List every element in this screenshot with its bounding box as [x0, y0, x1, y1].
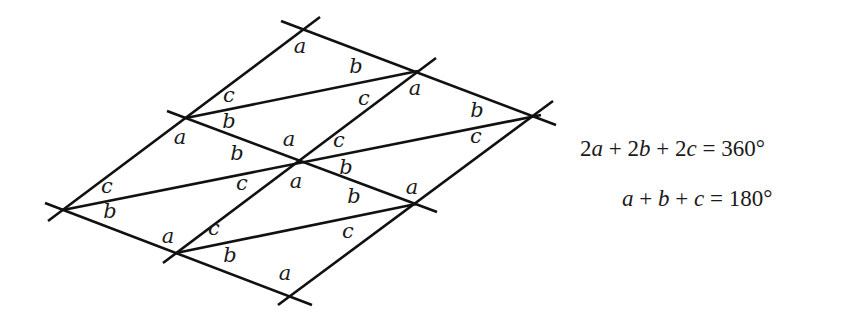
diagram-lines [45, 17, 556, 305]
angle-label-b: b [103, 199, 116, 223]
angle-label-c: c [236, 171, 248, 195]
angle-label-a: a [406, 175, 419, 199]
variable-b: b [639, 136, 651, 161]
angle-label-a: a [283, 127, 296, 151]
angle-label-b: b [470, 98, 483, 122]
angle-label-a: a [409, 76, 422, 100]
angle-label-a: a [294, 34, 307, 58]
upper-diagonal-line [186, 71, 418, 118]
angle-label-a: a [279, 261, 292, 285]
equals-sign: = [697, 136, 721, 161]
variable-a: a [592, 136, 604, 161]
angle-label-b: b [230, 141, 243, 165]
left-parallel-line [48, 17, 320, 221]
coefficient: 2 [627, 136, 639, 161]
angle-label-c: c [101, 174, 113, 198]
coefficient: 2 [675, 136, 687, 161]
center-parallel-line [163, 58, 436, 263]
variable-a: a [622, 186, 634, 211]
equals-sign: = [704, 186, 728, 211]
angle-label-c: c [223, 83, 235, 107]
angle-label-b: b [347, 184, 360, 208]
angle-label-a: a [174, 125, 187, 149]
angle-label-b: b [339, 155, 352, 179]
angle-label-c: c [333, 128, 345, 152]
angle-label-a: a [162, 224, 175, 248]
variable-c: c [686, 136, 696, 161]
result-180-degrees: 180° [729, 186, 773, 211]
plus-sign: + [669, 186, 693, 211]
variable-c: c [694, 186, 704, 211]
angle-label-b: b [223, 243, 236, 267]
angle-label-b: b [349, 54, 362, 78]
result-360-degrees: 360° [721, 136, 765, 161]
plus-sign: + [603, 136, 627, 161]
plus-sign: + [634, 186, 658, 211]
angle-label-c: c [342, 219, 354, 243]
plus-sign: + [650, 136, 674, 161]
lower-transversal-line [45, 203, 312, 305]
angle-label-c: c [208, 216, 220, 240]
equation-sum-180: a + b + c = 180° [622, 186, 772, 212]
angle-label-b: b [222, 109, 235, 133]
variable-b: b [658, 186, 670, 211]
upper-transversal-line [281, 21, 556, 125]
coefficient: 2 [580, 136, 592, 161]
angle-label-a: a [290, 169, 303, 193]
angle-label-c: c [470, 124, 482, 148]
equation-sum-360: 2a + 2b + 2c = 360° [580, 136, 765, 162]
angle-label-c: c [358, 86, 370, 110]
